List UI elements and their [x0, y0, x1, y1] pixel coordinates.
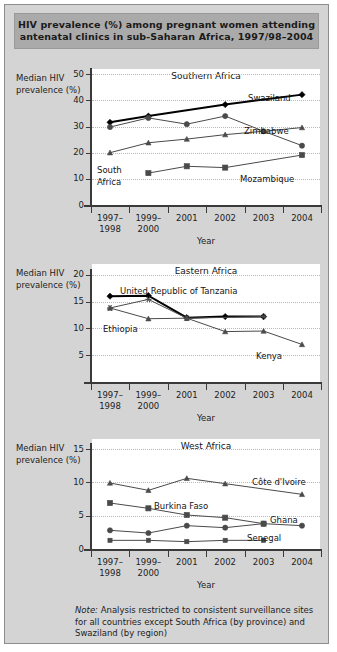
- x-axis-title: Year: [92, 236, 320, 246]
- y-axis-tick-label: 15: [60, 296, 84, 306]
- series-marker: [222, 313, 228, 319]
- series-marker: [107, 293, 113, 299]
- y-axis-tick-mark: [86, 328, 90, 329]
- series-marker: [222, 101, 228, 107]
- y-axis-line: [90, 443, 92, 551]
- x-axis-tick-label: 2004: [281, 390, 323, 401]
- y-axis-tick-label: 40: [60, 95, 84, 105]
- x-axis-tick-label: 1999–2000: [127, 390, 169, 411]
- series-marker: [146, 170, 151, 175]
- plot-area: Eastern AfricaUnited Republic of Tanzani…: [92, 264, 320, 428]
- y-axis-tick-label: 50: [60, 69, 84, 79]
- y-axis-line: [90, 269, 92, 384]
- series-marker: [146, 115, 151, 120]
- x-axis-tick-label: 2004: [281, 557, 323, 568]
- series-marker: [146, 506, 151, 511]
- y-axis-tick-mark: [86, 449, 90, 450]
- note-text: Analysis restricted to consistent survei…: [75, 605, 313, 638]
- series-label-united-republic-of-tanzania: United Republic of Tanzania: [120, 286, 238, 296]
- figure-page: HIV prevalence (%) among pregnant women …: [4, 4, 329, 644]
- series-label-mozambique: Mozambique: [240, 174, 294, 184]
- series-marker: [299, 152, 304, 157]
- series-marker: [261, 521, 266, 526]
- x-axis-title: Year: [92, 580, 320, 590]
- x-axis-tick-label: 1997–1998: [89, 213, 131, 234]
- x-axis-line: [84, 549, 322, 551]
- series-label-south: South: [97, 165, 122, 175]
- y-axis-tick-label: 10: [60, 477, 84, 487]
- series-marker: [299, 92, 305, 98]
- series-label-kenya: Kenya: [256, 351, 282, 361]
- x-axis-tick-mark: [321, 207, 322, 213]
- plot-canvas: West AfricaCôte d'IvoireBurkina FasoGhan…: [92, 439, 320, 549]
- series-label-africa: Africa: [97, 177, 121, 187]
- series-marker: [146, 538, 150, 542]
- y-axis-tick-mark: [86, 302, 90, 303]
- series-marker: [299, 523, 304, 528]
- figure-title-banner: HIV prevalence (%) among pregnant women …: [14, 13, 319, 49]
- y-axis-tick-label: 0: [60, 200, 84, 210]
- y-axis-tick-label: 5: [60, 350, 84, 360]
- y-axis-tick-label: 30: [60, 121, 84, 131]
- series-marker: [184, 122, 189, 127]
- x-axis-tick-label: 2002: [204, 213, 246, 224]
- y-axis-tick-mark: [86, 74, 90, 75]
- x-axis-tick-label: 2003: [243, 213, 285, 224]
- y-axis-tick-label: 20: [60, 147, 84, 157]
- x-axis-tick-label: 1999–2000: [127, 213, 169, 234]
- series-label-ghana: Ghana: [270, 515, 298, 525]
- figure-title-line-1: HIV prevalence (%) among pregnant women …: [18, 19, 315, 32]
- plot-canvas: Eastern AfricaUnited Republic of Tanzani…: [92, 264, 320, 382]
- series-marker: [223, 165, 228, 170]
- x-axis-tick-label: 2001: [166, 390, 208, 401]
- y-axis-tick-mark: [86, 482, 90, 483]
- series-marker: [299, 143, 304, 148]
- y-axis-tick-mark: [86, 127, 90, 128]
- series-layer: [92, 439, 320, 549]
- x-axis-tick-mark: [321, 551, 322, 557]
- figure-title-line-2: antenatal clinics in sub-Saharan Africa,…: [20, 31, 314, 44]
- series-marker: [184, 512, 189, 517]
- series-label-burkina-faso: Burkina Faso: [154, 501, 208, 511]
- series-marker: [185, 540, 189, 544]
- plot-area: Southern AfricaSwazilandZimbabweSouthAfr…: [92, 69, 320, 251]
- series-layer: [92, 69, 320, 205]
- series-label-ethiopia: Ethiopia: [103, 324, 138, 334]
- y-axis-tick-mark: [86, 275, 90, 276]
- x-axis-title: Year: [92, 413, 320, 423]
- plot-canvas: Southern AfricaSwazilandZimbabweSouthAfr…: [92, 69, 320, 205]
- series-marker: [107, 480, 112, 485]
- x-axis-tick-label: 1999–2000: [127, 557, 169, 578]
- x-axis-tick-label: 1997–1998: [89, 390, 131, 411]
- y-axis-tick-label: 10: [60, 173, 84, 183]
- y-axis-tick-mark: [86, 516, 90, 517]
- y-axis-line: [90, 68, 92, 207]
- x-axis-line: [84, 205, 322, 207]
- x-axis-tick-label: 2003: [243, 557, 285, 568]
- note-label: Note:: [75, 605, 98, 615]
- y-axis-tick-mark: [86, 355, 90, 356]
- series-marker: [223, 113, 228, 118]
- x-axis-tick-label: 2001: [166, 213, 208, 224]
- series-line-ghana: [110, 524, 302, 533]
- series-label-c-te-d-ivoire: Côte d'Ivoire: [252, 477, 306, 487]
- x-axis-line: [84, 382, 322, 384]
- x-axis-tick-label: 1997–1998: [89, 557, 131, 578]
- y-axis-tick-label: 10: [60, 323, 84, 333]
- series-marker: [146, 530, 151, 535]
- plot-area: West AfricaCôte d'IvoireBurkina FasoGhan…: [92, 439, 320, 595]
- series-marker: [184, 523, 189, 528]
- y-axis-tick-label: 0: [60, 544, 84, 554]
- y-axis-tick-mark: [86, 179, 90, 180]
- series-label-senegal: Senegal: [247, 533, 281, 543]
- series-marker: [223, 515, 228, 520]
- series-marker: [223, 525, 228, 530]
- y-axis-tick-label: 15: [60, 444, 84, 454]
- x-axis-tick-label: 2001: [166, 557, 208, 568]
- figure-note: Note: Analysis restricted to consistent …: [75, 605, 321, 640]
- x-axis-tick-label: 2004: [281, 213, 323, 224]
- series-label-zimbabwe: Zimbabwe: [244, 126, 289, 136]
- series-marker: [223, 538, 227, 542]
- series-line-kenya: [110, 308, 302, 344]
- series-layer: [92, 264, 320, 382]
